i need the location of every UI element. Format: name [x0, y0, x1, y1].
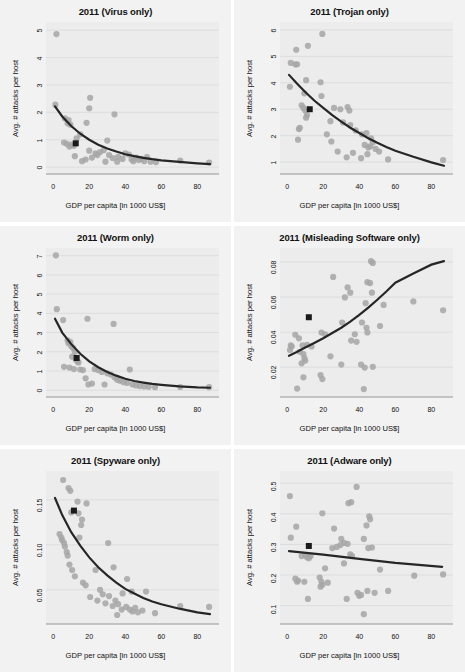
y-tick-label: 0.15 — [36, 498, 43, 512]
highlight-marker — [71, 508, 77, 514]
data-point — [370, 260, 376, 266]
data-point — [152, 610, 158, 616]
x-tick-label: 0 — [285, 183, 289, 190]
data-point — [376, 148, 382, 154]
highlight-marker — [306, 314, 312, 320]
data-point — [361, 611, 367, 617]
y-tick-label: 4 — [36, 312, 43, 316]
highlight-marker — [73, 140, 79, 146]
data-point — [337, 106, 343, 112]
data-point — [54, 306, 60, 312]
y-tick-label: 0.10 — [36, 543, 43, 557]
data-point — [71, 366, 77, 372]
data-point — [317, 79, 323, 85]
data-point — [206, 604, 212, 610]
plot-canvas — [46, 471, 219, 624]
data-point — [342, 294, 348, 300]
data-point — [305, 596, 311, 602]
data-point — [94, 598, 100, 604]
highlight-marker — [307, 106, 313, 112]
data-point — [381, 302, 387, 308]
data-point — [72, 573, 78, 579]
data-point — [53, 252, 59, 258]
y-tick-label: 0.05 — [36, 588, 43, 602]
data-point — [338, 361, 344, 367]
data-point — [119, 590, 125, 596]
data-point — [335, 148, 341, 154]
x-tick-label: 0 — [285, 406, 289, 413]
highlight-marker — [74, 355, 80, 361]
data-point — [364, 329, 370, 335]
data-point — [94, 152, 100, 158]
trend-line — [289, 551, 442, 567]
y-tick-label: 5 — [36, 29, 43, 33]
y-axis-label: Avg. # attacks per host — [11, 509, 20, 586]
x-tick-label: 20 — [319, 183, 327, 190]
y-tick-label: 0.1 — [270, 604, 277, 614]
x-tick-label: 40 — [355, 633, 363, 640]
data-point — [66, 562, 72, 568]
x-tick-label: 80 — [193, 183, 201, 190]
y-tick-label: 0.5 — [270, 482, 277, 492]
data-point — [114, 159, 120, 165]
x-tick-label: 0 — [51, 183, 55, 190]
data-point — [363, 522, 369, 528]
x-tick-label: 40 — [121, 183, 129, 190]
data-point — [319, 376, 325, 382]
y-tick-label: 2 — [270, 134, 277, 138]
highlight-marker — [306, 543, 312, 549]
data-point — [294, 385, 300, 391]
data-point — [294, 61, 300, 67]
data-point — [127, 366, 133, 372]
data-point — [301, 579, 307, 585]
panel-worm-only: 2011 (Worm only) 01234567020406080GDP pe… — [0, 226, 231, 445]
data-point — [359, 319, 365, 325]
data-point — [358, 592, 364, 598]
data-point — [361, 536, 367, 542]
data-point — [327, 353, 333, 359]
data-point — [84, 316, 90, 322]
panel-spyware-only: 2011 (Spyware only) 0.050.100.1502040608… — [0, 449, 231, 672]
data-point — [344, 541, 350, 547]
y-tick-label: 0 — [36, 389, 43, 393]
y-tick-label: 0.2 — [270, 574, 277, 584]
x-tick-label: 80 — [427, 183, 435, 190]
data-point — [72, 153, 78, 159]
data-point — [139, 607, 145, 613]
plot-area — [280, 471, 453, 624]
data-point — [369, 544, 375, 550]
data-point — [114, 612, 120, 618]
data-point — [100, 591, 106, 597]
data-point — [331, 525, 337, 531]
data-point — [440, 157, 446, 163]
y-tick-label: 0.08 — [270, 261, 277, 275]
data-point — [385, 156, 391, 162]
data-point — [358, 155, 364, 161]
y-tick-label: 5 — [36, 293, 43, 297]
plot-area — [46, 471, 219, 624]
x-tick-label: 20 — [85, 406, 93, 413]
data-point — [60, 477, 66, 483]
x-tick-label: 40 — [355, 406, 363, 413]
data-point — [303, 115, 309, 121]
data-point — [106, 593, 112, 599]
data-point — [322, 565, 328, 571]
x-tick-label: 80 — [427, 406, 435, 413]
data-point — [385, 588, 391, 594]
data-point — [364, 151, 370, 157]
data-point — [78, 522, 84, 528]
data-point — [110, 603, 116, 609]
trend-line — [289, 261, 444, 356]
y-tick-label: 6 — [36, 273, 43, 277]
x-tick-label: 60 — [391, 633, 399, 640]
data-point — [330, 274, 336, 280]
data-point — [87, 95, 93, 101]
data-point — [87, 594, 93, 600]
x-tick-label: 60 — [157, 183, 165, 190]
y-tick-label: 2 — [36, 111, 43, 115]
panel-title: 2011 (Virus only) — [0, 6, 231, 17]
plot-area — [280, 22, 453, 174]
x-tick-label: 20 — [85, 633, 93, 640]
data-point — [411, 573, 417, 579]
data-point — [288, 535, 294, 541]
